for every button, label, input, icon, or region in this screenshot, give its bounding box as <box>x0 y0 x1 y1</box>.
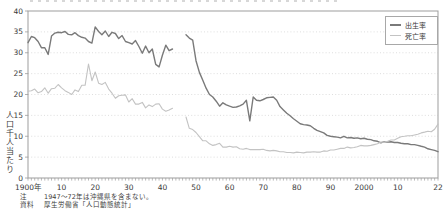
footnotes: 注 1947〜72年は沖縄県を含まない。 資料 厚生労働省「人口動態統計」 <box>20 193 153 209</box>
death-rate-line-swatch <box>390 35 401 36</box>
x-tick-label: 50 <box>191 183 201 192</box>
source-text: 厚生労働省「人口動態統計」 <box>44 201 135 209</box>
legend-label-birth-rate: 出生率 <box>405 20 426 30</box>
x-tick-label: 90 <box>326 183 336 192</box>
vital-statistics-chart: 05101520253035401900年1020304050607080902… <box>0 0 446 211</box>
source-row: 資料 厚生労働省「人口動態統計」 <box>20 201 153 209</box>
note-row: 注 1947〜72年は沖縄県を含まない。 <box>20 193 153 201</box>
y-tick-label: 25 <box>13 69 23 78</box>
legend: 出生率 死亡率 <box>385 16 438 45</box>
legend-label-death-rate: 死亡率 <box>405 31 426 41</box>
x-tick-label: 40 <box>158 183 168 192</box>
chart-plot-area: 05101520253035401900年1020304050607080902… <box>0 0 446 211</box>
y-tick-label: 30 <box>13 48 23 57</box>
x-tick-label: 70 <box>258 183 268 192</box>
source-label: 資料 <box>20 201 44 209</box>
x-tick-label: 22 <box>433 183 443 192</box>
y-tick-label: 0 <box>18 174 23 183</box>
legend-item-birth-rate: 出生率 <box>390 20 433 30</box>
x-tick-label: 10 <box>393 183 403 192</box>
x-tick-label: 1900年 <box>15 182 42 192</box>
x-tick-label: 30 <box>124 183 134 192</box>
y-tick-label: 35 <box>13 27 23 36</box>
x-tick-label: 20 <box>90 183 100 192</box>
birth-rate-line <box>28 27 438 152</box>
y-tick-label: 40 <box>13 7 23 16</box>
x-tick-label: 2000 <box>355 183 374 192</box>
legend-item-death-rate: 死亡率 <box>390 31 433 41</box>
x-tick-label: 60 <box>225 183 235 192</box>
y-tick-label: 20 <box>13 90 23 99</box>
birth-rate-line-swatch <box>390 24 401 26</box>
note-text: 1947〜72年は沖縄県を含まない。 <box>44 193 153 201</box>
y-axis-title: 人口千人当たり <box>3 111 13 174</box>
death-rate-line <box>28 64 438 153</box>
y-tick-label: 10 <box>13 132 23 141</box>
y-tick-label: 5 <box>18 153 23 162</box>
x-tick-label: 80 <box>292 183 302 192</box>
x-tick-label: 10 <box>57 183 67 192</box>
y-tick-label: 15 <box>13 111 23 120</box>
note-label: 注 <box>20 193 44 201</box>
